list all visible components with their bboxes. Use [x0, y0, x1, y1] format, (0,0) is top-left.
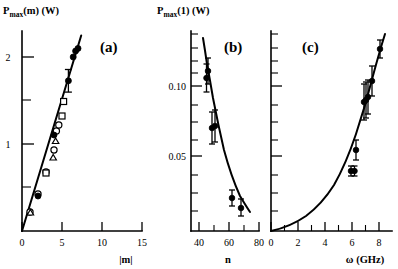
panel-a-y-axis-title: Pmax(m) (W) — [3, 5, 60, 19]
panel-b-x-axis-title: n — [225, 254, 231, 265]
panel-b: Pmax(1) (W) 0.10 0.05 — [157, 5, 264, 265]
panel-c-xtick-label-0: 0 — [269, 237, 274, 248]
panel-a-xtick-label-5: 5 — [60, 237, 65, 248]
panel-a-ytick-label-1: 1 — [6, 139, 11, 150]
figure-svg: Pmax(m) (W) 1 2 0 5 10 15 |m| (a) — [0, 0, 398, 269]
data-point — [365, 94, 371, 100]
panel-b-y-title-rest: (1) (W) — [177, 5, 210, 17]
panel-a-y-title-rest: (m) (W) — [23, 5, 59, 17]
data-point — [353, 147, 359, 153]
data-point — [238, 205, 244, 211]
panel-c-xtick-label-6: 6 — [350, 237, 355, 248]
panel-b-y-axis-title: Pmax(1) (W) — [157, 5, 210, 19]
data-point — [369, 78, 375, 84]
figure-container: Pmax(m) (W) 1 2 0 5 10 15 |m| (a) — [0, 0, 398, 269]
data-point — [65, 78, 71, 84]
panel-c-fit-curve — [271, 34, 385, 231]
panel-c-xtick-label-2: 2 — [296, 237, 301, 248]
data-point — [205, 68, 211, 74]
panel-b-y-ticks — [191, 34, 202, 211]
panel-a-y-ticks — [22, 57, 34, 187]
panel-c-label: (c) — [302, 39, 319, 56]
data-point — [212, 123, 218, 129]
data-point — [229, 195, 235, 201]
data-point — [52, 138, 58, 144]
panel-c-xtick-label-4: 4 — [323, 237, 328, 248]
data-point — [43, 170, 49, 176]
panel-a-x-ticks — [22, 222, 142, 231]
panel-b-y-title-sub: max — [163, 10, 177, 19]
panel-c-x-axis-title: ω (GHz) — [346, 254, 385, 266]
panel-a: Pmax(m) (W) 1 2 0 5 10 15 |m| (a) — [3, 5, 147, 265]
data-point — [56, 122, 62, 128]
data-point — [377, 46, 383, 52]
panel-a-xtick-label-15: 15 — [137, 237, 147, 248]
panel-a-x-axis-title: |m| — [119, 254, 132, 265]
data-point — [59, 113, 65, 119]
panel-b-xtick-label-80: 80 — [254, 237, 264, 248]
panel-a-xtick-label-10: 10 — [97, 237, 107, 248]
data-point — [61, 99, 67, 105]
data-point — [51, 147, 57, 153]
data-point — [50, 155, 56, 161]
panel-c: 0 2 4 6 8 ω (GHz) (c) — [269, 31, 393, 266]
data-point — [75, 45, 81, 51]
panel-b-label: (b) — [224, 39, 242, 56]
panel-b-x-ticks — [199, 222, 259, 231]
data-point — [35, 193, 41, 199]
data-point — [352, 168, 358, 174]
data-point — [51, 132, 57, 138]
panel-a-label: (a) — [100, 39, 118, 56]
panel-b-xtick-label-60: 60 — [224, 237, 234, 248]
panel-b-fit-curve — [203, 38, 250, 212]
panel-b-ytick-label-005: 0.05 — [169, 151, 187, 162]
panel-a-xtick-label-0: 0 — [20, 237, 25, 248]
data-point — [70, 54, 76, 60]
panel-a-y-title-sub: max — [9, 10, 23, 19]
panel-a-ytick-label-2: 2 — [6, 52, 11, 63]
panel-c-xtick-label-8: 8 — [377, 237, 382, 248]
error-bar — [229, 190, 235, 206]
panel-b-xtick-label-40: 40 — [194, 237, 204, 248]
panel-b-ytick-label-010: 0.10 — [169, 81, 187, 92]
error-bar — [352, 166, 358, 176]
panel-c-y-ticks — [271, 34, 282, 211]
